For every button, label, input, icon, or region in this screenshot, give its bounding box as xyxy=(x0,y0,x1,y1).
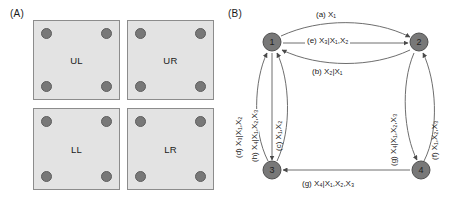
edge-a-path xyxy=(281,23,410,37)
graph-canvas: 1 2 3 4 xyxy=(0,0,473,198)
edge-label-f: (f) X₁,X₂,X₃ xyxy=(431,121,439,160)
graph-node-1[interactable]: 1 xyxy=(263,33,281,51)
graph-node-4-label: 4 xyxy=(418,165,423,175)
graph-node-1-label: 1 xyxy=(269,37,274,47)
edge-label-g-bottom: (g) X₄|X₁,X₂,X₃ xyxy=(302,180,354,188)
edge-label-h: (h) X₄|X₁,X₂,X₃ xyxy=(251,109,259,163)
graph-node-2[interactable]: 2 xyxy=(410,33,428,51)
graph-node-3[interactable]: 3 xyxy=(263,161,281,179)
edge-label-b: (b) X₂|X₁ xyxy=(312,68,343,76)
graph-node-3-label: 3 xyxy=(269,165,274,175)
edge-g-right-path xyxy=(405,53,417,160)
edge-label-c: (c) X₁,X₂ xyxy=(275,121,283,151)
edge-label-g-right: (g) X₄|X₁,X₂,X₃ xyxy=(390,114,398,166)
edge-label-e: (e) X₃|X₁,X₂ xyxy=(305,37,350,45)
edge-b-path xyxy=(282,50,410,64)
graph-node-2-label: 2 xyxy=(416,37,421,47)
edge-label-d: (d) X₃|X₁,X₂ xyxy=(235,117,243,158)
graph-node-4[interactable]: 4 xyxy=(412,161,430,179)
figure-root: (A) (B) UL UR LL LR xyxy=(0,0,473,198)
edge-label-a: (a) X₁ xyxy=(316,11,336,19)
